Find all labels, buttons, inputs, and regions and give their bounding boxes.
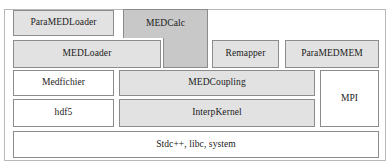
block-hdf5-label: hdf5: [55, 108, 73, 118]
block-mpi-label: MPI: [341, 94, 358, 104]
block-remapper-label: Remapper: [226, 49, 266, 59]
block-system-base-label: Stdc++, libc, system: [156, 140, 236, 150]
block-medloader: MEDLoader: [13, 40, 161, 68]
block-paramedloader-label: ParaMEDLoader: [30, 18, 96, 28]
block-medcoupling-label: MEDCoupling: [188, 78, 246, 88]
block-medcalc-lower-extension: [163, 37, 208, 68]
block-medcoupling: MEDCoupling: [119, 70, 315, 96]
block-hdf5: hdf5: [13, 99, 114, 127]
block-remapper: Remapper: [212, 40, 279, 68]
block-medfichier: Medfichier: [13, 70, 114, 96]
architecture-stack-diagram: ParaMEDLoader MEDCalc MEDLoader Remapper…: [0, 0, 390, 164]
block-medcalc-label: MEDCalc: [146, 19, 185, 29]
block-paramedmem-label: ParaMEDMEM: [301, 49, 363, 59]
block-system-base: Stdc++, libc, system: [13, 131, 379, 158]
block-interpkernel-label: InterpKernel: [192, 108, 242, 118]
block-medfichier-label: Medfichier: [42, 78, 85, 88]
block-paramedmem: ParaMEDMEM: [285, 40, 379, 68]
block-medcalc-seam-patch: [164, 36, 207, 39]
block-interpkernel: InterpKernel: [119, 99, 315, 127]
block-paramedloader: ParaMEDLoader: [13, 10, 114, 36]
block-medcalc: MEDCalc: [123, 9, 208, 38]
block-mpi: MPI: [320, 70, 379, 127]
block-medloader-label: MEDLoader: [63, 49, 112, 59]
